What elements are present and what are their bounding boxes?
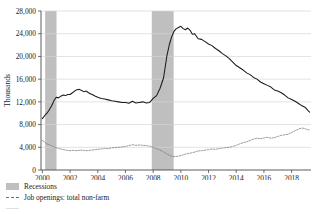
ytick-label-1: 4,000	[19, 143, 36, 152]
recession-band-0	[45, 11, 56, 170]
legend-label-recessions: Recessions	[24, 181, 57, 192]
legend-item-job-openings: Job openings: total non-farm	[6, 192, 109, 203]
xtick-label-3: 2006	[118, 174, 133, 180]
xtick-label-4: 2008	[146, 174, 161, 180]
xtick-label-2: 2004	[90, 174, 105, 180]
ytick-label-6: 24,000	[16, 29, 37, 38]
xtick-label-1: 2002	[63, 174, 78, 180]
legend-item-truncated	[6, 203, 109, 214]
xtick-label-7: 2014	[229, 174, 244, 180]
ytick-label-2: 8,000	[19, 120, 36, 129]
xtick-label-6: 2012	[201, 174, 216, 180]
ytick-label-7: 28,000	[16, 7, 37, 16]
xtick-label-9: 2018	[284, 174, 299, 180]
recession-band-1	[152, 11, 174, 170]
recession-swatch-icon	[6, 183, 19, 190]
ytick-label-3: 12,000	[16, 98, 37, 107]
ytick-label-5: 20,000	[16, 52, 37, 61]
legend-item-recessions: Recessions	[6, 181, 109, 192]
ytick-label-4: 16,000	[16, 75, 37, 84]
series-line-0	[42, 26, 309, 118]
series-line-1	[42, 128, 309, 157]
y-axis-title: Thousands	[3, 74, 12, 107]
chart-legend: Recessions Job openings: total non-farm	[6, 181, 109, 214]
dashed-line-swatch-icon	[6, 197, 19, 198]
legend-label-job-openings: Job openings: total non-farm	[24, 192, 109, 203]
xtick-label-8: 2016	[257, 174, 272, 180]
xtick-label-0: 2000	[35, 174, 50, 180]
chart-container: 04,0008,00012,00016,00020,00024,00028,00…	[0, 0, 314, 214]
solid-line-swatch-icon	[6, 208, 19, 209]
xtick-label-5: 2010	[173, 174, 188, 180]
line-chart-plot: 04,0008,00012,00016,00020,00024,00028,00…	[0, 0, 314, 180]
